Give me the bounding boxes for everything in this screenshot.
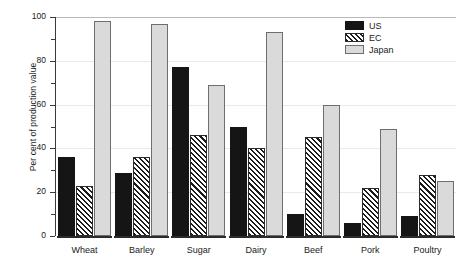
bar-us-beef[interactable] [287,214,304,236]
bar-japan-poultry[interactable] [437,181,454,236]
y-tick-label-60: 60 [20,99,46,109]
bar-japan-sugar[interactable] [208,85,225,236]
bar-ec-pork[interactable] [362,188,379,236]
legend-item-ec[interactable]: EC [345,32,407,43]
y-tick-minor-70 [51,83,55,84]
y-tick-100 [50,17,55,18]
y-tick-minor-90 [51,39,55,40]
group-baseline [343,236,398,238]
bar-us-poultry[interactable] [401,216,418,236]
group-baseline [114,236,169,238]
y-tick-label-100: 100 [20,11,46,21]
bar-us-barley[interactable] [115,173,132,237]
bar-japan-barley[interactable] [151,24,168,236]
group-baseline [57,236,112,238]
bar-japan-wheat[interactable] [94,21,111,236]
group-baseline [400,236,455,238]
y-tick-label-20: 20 [20,186,46,196]
bar-japan-beef[interactable] [323,105,340,236]
bar-us-dairy[interactable] [230,127,247,237]
bar-ec-wheat[interactable] [76,186,93,236]
y-tick-minor-30 [51,170,55,171]
bar-us-sugar[interactable] [172,67,189,236]
y-tick-80 [50,61,55,62]
legend: US EC Japan [345,20,407,56]
legend-swatch-japan-icon [345,45,364,54]
bar-group-wheat [58,17,111,236]
group-baseline [286,236,341,238]
bar-us-wheat[interactable] [58,157,75,236]
bar-japan-pork[interactable] [380,129,397,236]
x-tick-label-poultry: Poultry [382,245,468,255]
bar-us-pork[interactable] [344,223,361,236]
legend-label-us: US [369,21,382,31]
legend-label-ec: EC [369,33,382,43]
y-tick-label-40: 40 [20,142,46,152]
bar-ec-beef[interactable] [305,137,322,236]
group-baseline [171,236,226,238]
bar-ec-dairy[interactable] [248,148,265,236]
y-tick-20 [50,192,55,193]
legend-item-japan[interactable]: Japan [345,44,407,55]
legend-swatch-ec-icon [345,33,364,42]
bar-group-barley [115,17,168,236]
y-tick-0 [50,236,55,237]
group-baseline [229,236,284,238]
bar-ec-poultry[interactable] [419,175,436,236]
bar-ec-barley[interactable] [133,157,150,236]
y-tick-label-0: 0 [20,230,46,240]
legend-label-japan: Japan [369,45,394,55]
bar-group-sugar [172,17,225,236]
bar-ec-sugar[interactable] [190,135,207,236]
y-tick-label-80: 80 [20,55,46,65]
bar-chart-figure: Per cent of production value 02040608010… [0,0,468,274]
bar-group-dairy [230,17,283,236]
y-tick-minor-50 [51,127,55,128]
bar-group-beef [287,17,340,236]
bar-group-poultry [401,17,454,236]
legend-item-us[interactable]: US [345,20,407,31]
y-tick-minor-10 [51,214,55,215]
y-tick-40 [50,148,55,149]
y-axis-label: Per cent of production value [28,22,38,212]
legend-swatch-us-icon [345,21,364,30]
bar-japan-dairy[interactable] [266,32,283,236]
y-tick-60 [50,105,55,106]
